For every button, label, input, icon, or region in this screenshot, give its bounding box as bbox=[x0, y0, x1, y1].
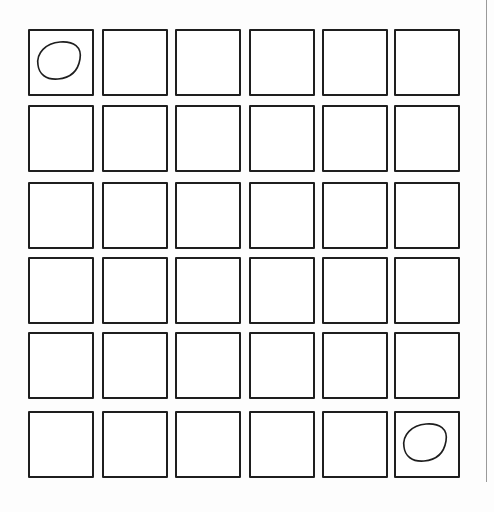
grid-cell bbox=[249, 332, 315, 399]
grid-cell bbox=[102, 257, 168, 324]
margin-line bbox=[486, 0, 487, 482]
grid-cell bbox=[394, 105, 460, 172]
grid-cell bbox=[28, 29, 94, 96]
grid-cell bbox=[102, 332, 168, 399]
grid-cell bbox=[102, 105, 168, 172]
grid-cell bbox=[249, 182, 315, 249]
grid-cell bbox=[394, 332, 460, 399]
grid-cell bbox=[28, 257, 94, 324]
grid-cell bbox=[394, 29, 460, 96]
grid-cell bbox=[322, 105, 388, 172]
grid-cell bbox=[322, 29, 388, 96]
grid-cell bbox=[394, 411, 460, 478]
grid-cell bbox=[175, 182, 241, 249]
grid-cell bbox=[102, 182, 168, 249]
grid-cell bbox=[249, 29, 315, 96]
grid-cell bbox=[102, 411, 168, 478]
grid-cell bbox=[322, 411, 388, 478]
grid-cell bbox=[175, 105, 241, 172]
square-grid bbox=[0, 0, 494, 512]
grid-cell bbox=[394, 257, 460, 324]
page bbox=[0, 0, 494, 512]
grid-cell bbox=[249, 105, 315, 172]
grid-cell bbox=[175, 411, 241, 478]
grid-cell bbox=[322, 182, 388, 249]
grid-cell bbox=[322, 332, 388, 399]
grid-cell bbox=[175, 332, 241, 399]
grid-cell bbox=[322, 257, 388, 324]
grid-cell bbox=[175, 257, 241, 324]
grid-cell bbox=[28, 332, 94, 399]
grid-cell bbox=[394, 182, 460, 249]
grid-cell bbox=[175, 29, 241, 96]
grid-cell bbox=[249, 411, 315, 478]
grid-cell bbox=[28, 182, 94, 249]
oval-mark-icon bbox=[396, 413, 458, 476]
grid-cell bbox=[28, 105, 94, 172]
grid-cell bbox=[249, 257, 315, 324]
oval-mark-icon bbox=[30, 31, 92, 94]
grid-cell bbox=[28, 411, 94, 478]
grid-cell bbox=[102, 29, 168, 96]
